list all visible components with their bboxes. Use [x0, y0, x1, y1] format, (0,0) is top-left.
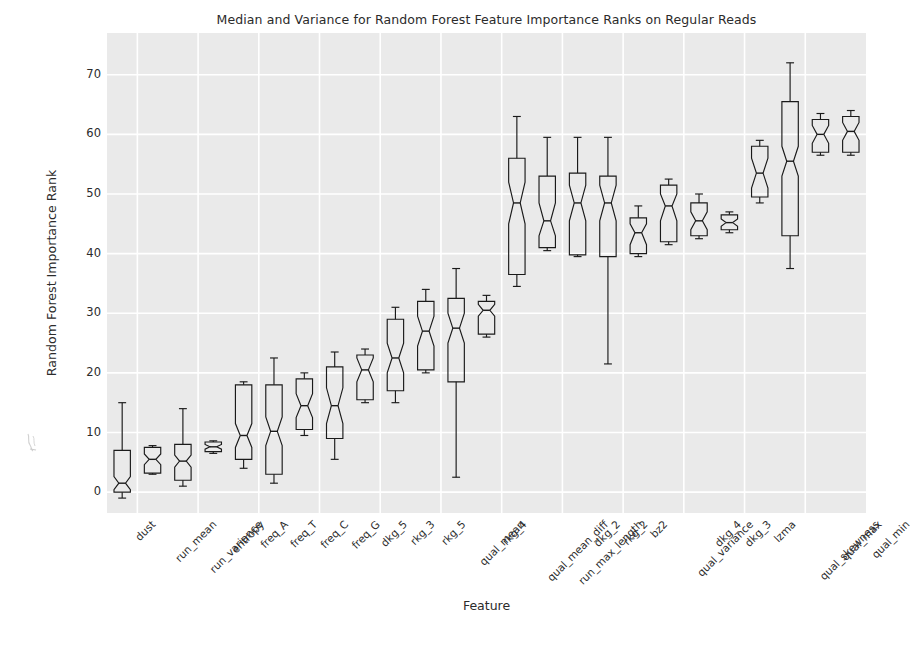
- x-tick-label-lzma: lzma: [771, 518, 797, 544]
- x-tick-label-freq_G: freq_G: [349, 518, 382, 551]
- x-tick-label-dkg_5: dkg_5: [378, 518, 409, 549]
- x-tick-label-rkg_5: rkg_5: [438, 518, 467, 547]
- x-tick-label-rkg_2: rkg_2: [621, 518, 650, 547]
- x-tick-label-qual_mean_diff: qual_mean_diff: [544, 518, 609, 583]
- scan-artifact-icon: [24, 432, 42, 452]
- x-tick-label-bz2: bz2: [648, 518, 670, 540]
- x-tick-label-dust: dust: [133, 518, 158, 543]
- x-tick-label-run_mean: run_mean: [172, 518, 218, 564]
- x-axis-label: Feature: [107, 598, 866, 613]
- x-tick-label-freq_C: freq_C: [318, 518, 350, 550]
- x-tick-label-freq_T: freq_T: [288, 518, 320, 550]
- x-tick-label-rkg_3: rkg_3: [408, 518, 437, 547]
